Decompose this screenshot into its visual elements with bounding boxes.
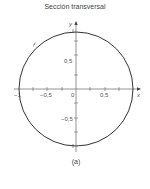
figure-caption: (a) [0,158,150,165]
y-tick-label: −0,5 [61,116,74,122]
x-tick-label: −0,5 [40,92,53,98]
orientation-arrow-icon [33,42,36,47]
x-tick-label: 0,5 [100,92,109,98]
x-tick-label: −1 [14,92,22,98]
y-axis-label: y [68,21,73,27]
x-axis-arrow-icon [137,87,141,90]
y-axis-arrow-icon [74,21,77,25]
x-tick-label: 0 [71,92,75,98]
y-tick-label: 0,5 [64,58,73,64]
x-axis-label: x [136,92,141,98]
